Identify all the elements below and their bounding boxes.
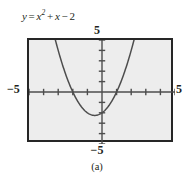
graph-frame [27, 38, 173, 142]
axis-label-bottom: −5 [0, 144, 194, 156]
figure-caption: (a) [0, 161, 194, 172]
equation-term1-exponent: 2 [42, 8, 46, 17]
axes-group [29, 40, 175, 144]
equation-plus-operator: + [46, 10, 55, 22]
axis-label-right: 5 [176, 83, 182, 95]
equation-equals: = [27, 10, 36, 22]
parabola-curve [55, 40, 134, 115]
equation-constant: 2 [69, 10, 75, 22]
graph-plot-area [29, 40, 175, 144]
axis-label-top: 5 [0, 24, 194, 36]
equation-label: y=x2+x−2 [22, 10, 75, 22]
axis-label-left: −5 [7, 83, 20, 95]
parabola-curve-group [55, 40, 134, 115]
